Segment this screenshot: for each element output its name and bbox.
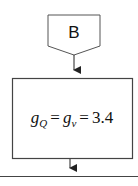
formula-mid-sub: v: [71, 117, 76, 129]
formula-eq2: =: [79, 108, 89, 127]
process-box: gQ=gv=3.4: [13, 79, 133, 159]
formula-lhs-var: g: [31, 108, 40, 127]
formula-mid-var: g: [63, 108, 72, 127]
off-page-connector-b: B: [48, 15, 100, 55]
formula-eq1: =: [50, 108, 60, 127]
flowchart-canvas: B gQ=gv=3.4: [0, 0, 138, 186]
connector-label: B: [68, 23, 79, 42]
formula-value: 3.4: [92, 108, 114, 127]
formula-lhs-sub: Q: [39, 117, 47, 129]
